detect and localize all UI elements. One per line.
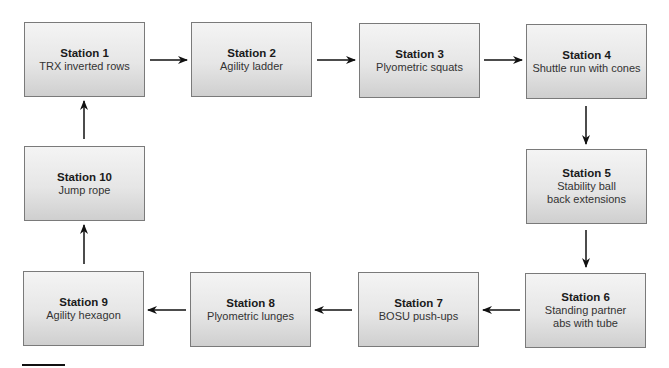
station-3-box: Station 3 Plyometric squats xyxy=(359,23,480,98)
station-9-box: Station 9 Agility hexagon xyxy=(23,271,144,346)
station-title: Station 3 xyxy=(395,48,444,61)
station-description: abs with tube xyxy=(553,317,618,330)
station-description: Shuttle run with cones xyxy=(532,62,640,75)
station-description: BOSU push-ups xyxy=(379,310,458,323)
station-description: Standing partner xyxy=(545,304,626,317)
station-title: Station 6 xyxy=(561,291,610,304)
station-description: Agility hexagon xyxy=(46,309,121,322)
station-description: Plyometric lunges xyxy=(207,310,294,323)
station-title: Station 1 xyxy=(60,47,109,60)
station-5-box: Station 5 Stability ball back extensions xyxy=(526,149,647,224)
station-1-box: Station 1 TRX inverted rows xyxy=(24,22,145,97)
figure-rule xyxy=(22,364,65,366)
station-title: Station 10 xyxy=(57,171,112,184)
station-description: Plyometric squats xyxy=(376,61,463,74)
station-description: back extensions xyxy=(547,193,626,206)
station-title: Station 2 xyxy=(227,47,276,60)
station-10-box: Station 10 Jump rope xyxy=(24,146,145,221)
station-description: TRX inverted rows xyxy=(39,60,129,73)
station-2-box: Station 2 Agility ladder xyxy=(191,22,312,97)
station-title: Station 8 xyxy=(226,297,275,310)
station-title: Station 9 xyxy=(59,296,108,309)
station-description: Stability ball xyxy=(557,180,616,193)
station-description: Jump rope xyxy=(59,184,111,197)
station-title: Station 4 xyxy=(562,49,611,62)
station-title: Station 7 xyxy=(394,297,443,310)
station-title: Station 5 xyxy=(562,167,611,180)
station-6-box: Station 6 Standing partner abs with tube xyxy=(525,273,646,348)
station-8-box: Station 8 Plyometric lunges xyxy=(190,272,311,347)
station-4-box: Station 4 Shuttle run with cones xyxy=(526,24,647,99)
station-7-box: Station 7 BOSU push-ups xyxy=(358,272,479,347)
station-description: Agility ladder xyxy=(220,60,283,73)
